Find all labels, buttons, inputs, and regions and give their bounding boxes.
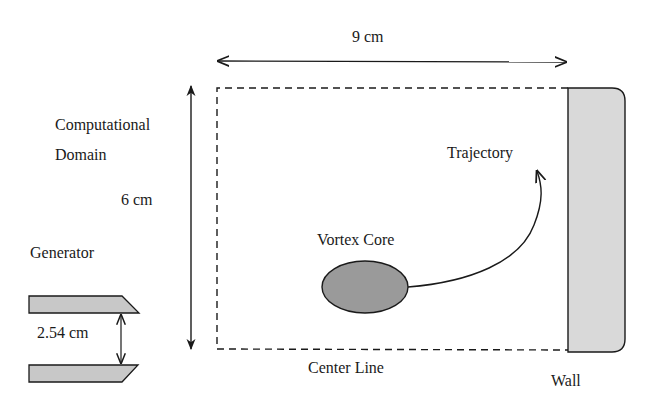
trajectory-label: Trajectory	[447, 145, 513, 161]
diagram-canvas	[0, 0, 658, 407]
computational-domain-boundary	[217, 88, 568, 350]
width-dimension-label: 9 cm	[352, 29, 384, 45]
domain-label-line1: Computational	[55, 117, 150, 133]
wall-shape	[568, 88, 625, 352]
gap-dimension-label: 2.54 cm	[37, 325, 89, 341]
vortex-core-label: Vortex Core	[317, 232, 394, 248]
center-line-label: Center Line	[308, 360, 384, 376]
vortex-core	[322, 261, 408, 313]
generator-top-plate	[29, 296, 139, 313]
wall-label: Wall	[551, 373, 581, 389]
height-dimension-label: 6 cm	[121, 192, 153, 208]
trajectory-arrow	[408, 171, 541, 287]
generator-bottom-plate	[29, 365, 138, 382]
domain-label-line2: Domain	[55, 147, 107, 163]
width-dimension-arrow	[218, 61, 566, 62]
generator-label: Generator	[30, 245, 94, 261]
